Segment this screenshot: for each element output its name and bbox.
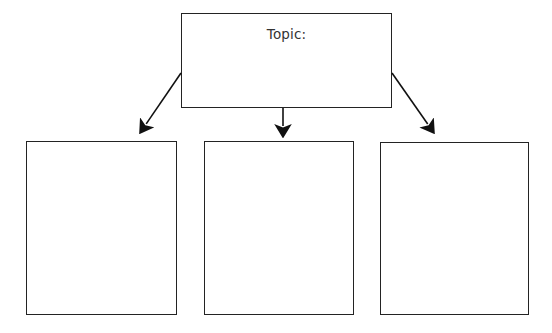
detail-box-3[interactable]	[380, 142, 529, 315]
arrow-left-to-detail-box-1	[146, 73, 181, 124]
detail-box-1[interactable]	[26, 141, 177, 315]
topic-label: Topic:	[182, 26, 391, 42]
arrow-right-to-detail-box-3	[392, 73, 428, 124]
topic-box[interactable]: Topic:	[181, 13, 392, 108]
detail-box-2[interactable]	[204, 141, 354, 315]
diagram-canvas: Topic:	[0, 0, 552, 333]
